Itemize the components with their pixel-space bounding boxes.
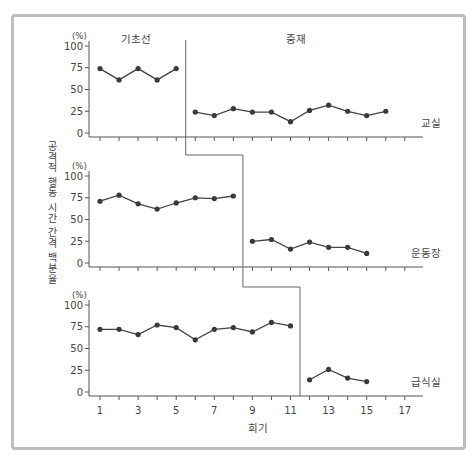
data-point (136, 66, 141, 71)
y-tick-label: 25 (70, 106, 83, 117)
data-point (326, 103, 331, 108)
data-point (193, 110, 198, 115)
x-tick-label: 15 (360, 405, 373, 416)
data-point (250, 329, 255, 334)
data-point (212, 327, 217, 332)
y-axis-title-char: 공 (48, 141, 57, 152)
y-tick-label: 100 (64, 300, 83, 311)
data-point (269, 110, 274, 115)
phase-label-intervention: 중재 (286, 33, 306, 45)
data-point (250, 110, 255, 115)
data-point (212, 196, 217, 201)
data-series-line (310, 369, 367, 381)
data-point (97, 199, 102, 204)
y-axis-title-char: 시 (48, 202, 57, 213)
data-point (269, 237, 274, 242)
phase-change-line (186, 40, 300, 396)
y-tick-label: 100 (64, 171, 83, 182)
y-tick-label: 50 (70, 84, 83, 95)
y-unit-label: (%) (72, 290, 87, 300)
y-axis-title-char: 격 (48, 237, 57, 249)
data-point (155, 206, 160, 211)
y-tick-label: 100 (64, 41, 83, 52)
data-point (364, 113, 369, 118)
x-tick-label: 11 (284, 405, 297, 416)
data-point (174, 325, 179, 330)
data-point (231, 325, 236, 330)
data-point (288, 246, 293, 251)
data-point (345, 109, 350, 114)
y-unit-label: (%) (72, 161, 87, 171)
data-point (193, 195, 198, 200)
x-tick-label: 1 (97, 405, 103, 416)
data-point (307, 108, 312, 113)
y-axis-title-char: 백 (48, 252, 57, 263)
data-point (307, 377, 312, 382)
data-point (116, 77, 121, 82)
data-point (97, 66, 102, 71)
data-point (250, 239, 255, 244)
data-point (174, 66, 179, 71)
y-tick-label: 0 (77, 128, 83, 139)
setting-label: 급식실 (411, 376, 441, 388)
data-point (116, 193, 121, 198)
x-tick-label: 13 (322, 405, 335, 416)
y-axis-title-char: 격 (48, 151, 57, 163)
data-point (269, 320, 274, 325)
data-point (155, 77, 160, 82)
data-point (231, 106, 236, 111)
y-tick-label: 75 (70, 62, 83, 73)
data-point (97, 327, 102, 332)
data-point (345, 375, 350, 380)
data-point (364, 379, 369, 384)
data-point (116, 327, 121, 332)
data-point (345, 245, 350, 250)
data-point (383, 109, 388, 114)
y-tick-label: 0 (77, 387, 83, 398)
y-tick-label: 25 (70, 365, 83, 376)
y-axis-title-char: 행 (48, 177, 57, 188)
data-point (326, 245, 331, 250)
x-tick-label: 9 (249, 405, 255, 416)
data-point (288, 119, 293, 124)
data-point (136, 201, 141, 206)
setting-label: 운동장 (411, 247, 441, 259)
x-axis-title: 회기 (248, 422, 268, 434)
data-point (174, 200, 179, 205)
x-tick-label: 3 (135, 405, 141, 416)
data-point (155, 322, 160, 327)
y-axis-title-char: 율 (48, 274, 57, 285)
data-point (136, 332, 141, 337)
y-tick-label: 50 (70, 214, 83, 225)
data-series-line (100, 322, 291, 339)
data-point (288, 323, 293, 328)
multiple-baseline-chart: (%)0255075100교실(%)0255075100운동장(%)025507… (0, 0, 474, 459)
chart-figure: (%)0255075100교실(%)0255075100운동장(%)025507… (0, 0, 474, 459)
data-point (212, 113, 217, 118)
x-tick-label: 17 (398, 405, 411, 416)
setting-label: 교실 (421, 117, 441, 129)
x-tick-label: 5 (173, 405, 179, 416)
y-axis-title-char: 적 (48, 162, 57, 173)
phase-label-baseline: 기초선 (121, 33, 151, 45)
data-point (231, 193, 236, 198)
y-axis-title-char: 간 (48, 227, 57, 238)
y-tick-label: 0 (77, 258, 83, 269)
data-point (307, 240, 312, 245)
data-point (193, 337, 198, 342)
y-axis-title-char: 분 (48, 263, 57, 274)
y-tick-label: 25 (70, 236, 83, 247)
y-tick-label: 75 (70, 192, 83, 203)
data-point (326, 367, 331, 372)
y-tick-label: 75 (70, 321, 83, 332)
y-unit-label: (%) (72, 31, 87, 41)
y-tick-label: 50 (70, 343, 83, 354)
y-axis-title-char: 동 (48, 187, 57, 198)
data-point (364, 251, 369, 256)
x-tick-label: 7 (211, 405, 217, 416)
y-axis-title-char: 간 (48, 213, 57, 224)
